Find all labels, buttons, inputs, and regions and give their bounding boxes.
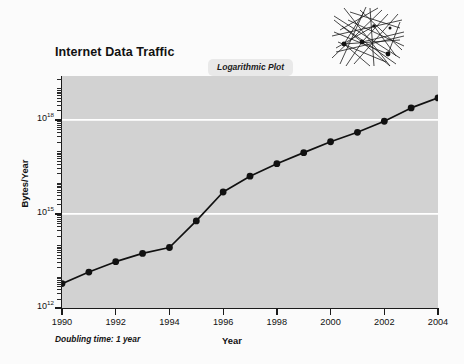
data-point <box>247 173 254 180</box>
y-axis-minor-tick <box>57 125 62 126</box>
data-line <box>62 98 438 284</box>
y-axis-minor-tick <box>57 187 62 188</box>
y-axis-minor-tick <box>57 153 62 154</box>
y-axis-minor-tick <box>57 92 62 93</box>
y-axis-minor-tick <box>57 248 62 249</box>
y-axis-minor-tick <box>57 121 62 122</box>
y-axis-minor-tick <box>57 230 62 231</box>
x-axis-tick <box>276 309 277 315</box>
page-title: Internet Data Traffic <box>55 45 175 59</box>
y-axis-minor-tick <box>57 151 62 152</box>
x-axis-tick-label: 1994 <box>159 317 179 327</box>
y-axis-minor-tick <box>57 226 62 227</box>
data-point <box>85 269 92 276</box>
doubling-time-annotation: Doubling time: 1 year <box>55 334 140 344</box>
y-axis-tick-label: 1018 <box>37 113 54 123</box>
data-point <box>166 244 173 251</box>
y-axis-minor-tick <box>57 79 62 80</box>
y-axis-minor-tick <box>57 190 62 191</box>
x-axis-tick-label: 1990 <box>52 317 72 327</box>
y-axis-minor-tick <box>57 195 62 196</box>
y-axis-minor-tick <box>57 262 62 263</box>
y-axis-minor-tick <box>57 255 62 256</box>
y-axis-minor-tick <box>57 286 62 287</box>
y-axis-minor-tick <box>57 110 62 111</box>
plot-type-badge: Logarithmic Plot <box>208 59 293 76</box>
x-axis-tick-label: 2004 <box>428 317 448 327</box>
data-point <box>220 189 227 196</box>
network-mesh-icon <box>330 6 406 68</box>
y-axis-minor-tick <box>57 101 62 102</box>
y-axis-tick-label: 1012 <box>37 301 54 311</box>
y-axis-minor-tick <box>57 90 62 91</box>
y-axis-minor-tick <box>57 278 62 279</box>
x-axis-tick <box>223 309 224 315</box>
data-point <box>273 160 280 167</box>
data-point <box>62 280 65 287</box>
data-point <box>193 217 200 224</box>
y-axis-minor-tick <box>57 252 62 253</box>
data-point <box>408 105 415 112</box>
data-point <box>139 250 146 257</box>
y-axis-minor-tick <box>57 215 62 216</box>
y-axis-minor-tick <box>57 183 62 184</box>
y-axis-minor-tick <box>57 267 62 268</box>
y-axis-minor-tick <box>57 299 62 300</box>
y-axis-minor-tick <box>57 204 62 205</box>
y-axis-minor-tick <box>57 136 62 137</box>
data-series-line-chart <box>62 76 438 308</box>
y-axis-minor-tick <box>57 123 62 124</box>
y-axis-minor-tick <box>57 129 62 130</box>
plot-area <box>62 76 438 308</box>
y-axis-minor-tick <box>57 158 62 159</box>
y-axis-minor-tick <box>57 132 62 133</box>
data-markers <box>62 95 438 287</box>
x-axis-tick <box>61 309 62 315</box>
x-axis-line <box>61 308 439 309</box>
y-axis-minor-tick <box>57 199 62 200</box>
y-axis-minor-tick <box>57 164 62 165</box>
x-axis-tick-label: 1998 <box>267 317 287 327</box>
y-axis-minor-tick <box>57 161 62 162</box>
y-axis-minor-tick <box>57 105 62 106</box>
data-point <box>327 138 334 145</box>
y-axis-minor-tick <box>57 88 62 89</box>
y-axis-minor-tick <box>57 95 62 96</box>
x-axis-tick-label: 2002 <box>374 317 394 327</box>
x-axis-tick <box>437 309 438 315</box>
data-point <box>354 129 361 136</box>
y-axis-minor-tick <box>57 219 62 220</box>
x-axis-tick <box>169 309 170 315</box>
chart-page: Internet Data Traffic Logarithmic Plot <box>0 0 464 364</box>
y-axis-minor-tick <box>57 173 62 174</box>
x-axis-tick-label: 1996 <box>213 317 233 327</box>
y-axis-title: Bytes/Year <box>19 144 30 224</box>
y-axis-minor-tick <box>57 247 62 248</box>
y-axis-minor-tick <box>57 93 62 94</box>
y-axis-minor-tick <box>57 168 62 169</box>
y-axis-minor-tick <box>57 127 62 128</box>
y-axis-minor-tick <box>57 282 62 283</box>
y-axis-minor-tick <box>57 258 62 259</box>
y-axis-minor-tick <box>57 245 62 246</box>
y-axis-minor-tick <box>57 192 62 193</box>
y-axis-tick-label: 1015 <box>37 207 54 217</box>
y-axis-minor-tick <box>57 284 62 285</box>
x-axis-tick-label: 2000 <box>320 317 340 327</box>
data-point <box>381 118 388 125</box>
y-axis-minor-tick <box>57 184 62 185</box>
y-axis-minor-tick <box>57 142 62 143</box>
y-axis-minor-tick <box>57 98 62 99</box>
data-point <box>112 258 119 265</box>
gridlines <box>62 120 438 214</box>
y-axis-minor-tick <box>57 289 62 290</box>
y-axis-minor-tick <box>57 277 62 278</box>
y-axis-minor-tick <box>57 186 62 187</box>
y-axis-minor-tick <box>57 293 62 294</box>
x-axis-tick-label: 1992 <box>105 317 125 327</box>
y-axis-minor-tick <box>57 221 62 222</box>
x-axis-tick <box>384 309 385 315</box>
y-axis-minor-tick <box>57 223 62 224</box>
y-axis-minor-tick <box>57 156 62 157</box>
data-point <box>300 149 307 156</box>
